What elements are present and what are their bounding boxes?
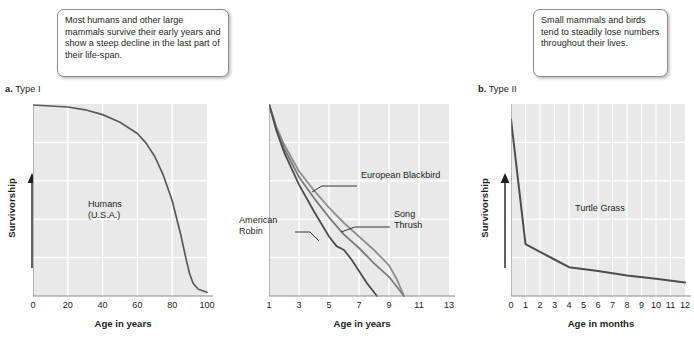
caption-letter-a: a.: [5, 84, 13, 94]
chart-type-i: [33, 104, 213, 302]
caption-text-a: Type I: [15, 84, 40, 94]
chart-type-ii: [269, 104, 455, 302]
series-label-turtle-grass: Turtle Grass: [575, 203, 625, 214]
x-axis-label-b: Age in years: [269, 318, 455, 329]
panel-type-iii: Many Turtle Grass seedlings and those of…: [472, 0, 694, 338]
panel-type-ii: Small mammals and birds tend to steadily…: [236, 0, 472, 338]
x-axis-label-a: Age in years: [33, 318, 213, 329]
series-label-european-blackbird: European Blackbird: [361, 170, 440, 181]
series-label-song-thrush: Song Thrush: [394, 209, 422, 231]
panel-type-i: Most humans and other large mammals surv…: [0, 0, 236, 338]
y-axis-label-a: Survivorship: [6, 178, 22, 238]
caption-type-i: a. Type I: [5, 84, 41, 94]
x-axis-label-c: Age in months: [511, 318, 691, 329]
callout-type-i: Most humans and other large mammals surv…: [57, 9, 229, 77]
series-label-humans: Humans (U.S.A.): [88, 199, 122, 221]
series-label-american-robin: American Robin: [239, 215, 277, 237]
